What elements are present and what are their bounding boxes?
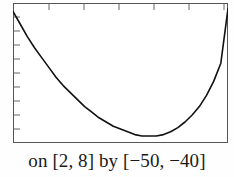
figure-caption: on [2, 8] by [−50, −40] [0, 148, 234, 174]
graph-figure: on [2, 8] by [−50, −40] [0, 0, 234, 177]
graphing-window [13, 3, 228, 143]
graph-plot-svg [13, 3, 228, 143]
plot-frame [14, 4, 228, 143]
